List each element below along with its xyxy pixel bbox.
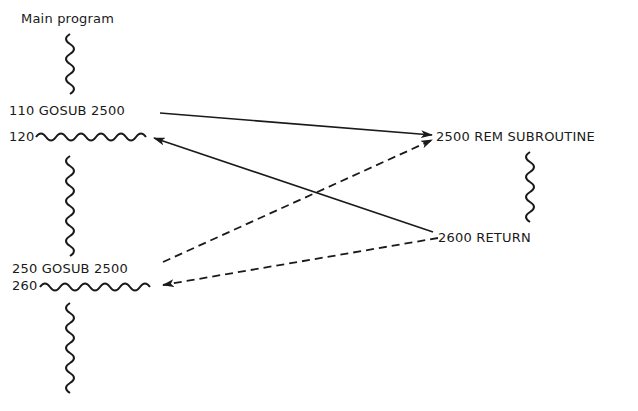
line-120-label: 120 [9, 130, 34, 143]
code-squiggle-middle [66, 156, 74, 256]
code-squiggle-260 [40, 284, 150, 291]
main-program-title: Main program [21, 12, 114, 25]
call-arrow-110 [160, 113, 432, 135]
flow-diagram [0, 0, 638, 411]
code-squiggle-120 [36, 134, 146, 141]
return-arrow-120 [154, 138, 433, 232]
subroutine-start-label: 2500 REM SUBROUTINE [436, 130, 595, 143]
return-arrow-260 [163, 238, 438, 285]
code-squiggle-bottom [66, 303, 74, 393]
call-arrow-250 [163, 140, 432, 262]
code-squiggle-subroutine [526, 152, 534, 222]
gosub-110-label: 110 GOSUB 2500 [9, 104, 125, 117]
code-squiggle-top [66, 34, 74, 94]
gosub-250-label: 250 GOSUB 2500 [12, 262, 128, 275]
subroutine-return-label: 2600 RETURN [438, 231, 531, 244]
line-260-label: 260 [12, 279, 37, 292]
